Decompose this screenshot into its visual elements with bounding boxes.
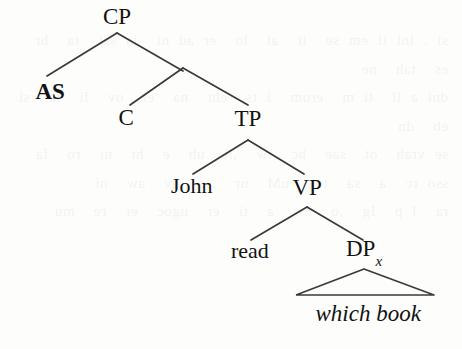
node-dp-subscript: x (375, 253, 382, 269)
node-cp-text: CP (103, 4, 131, 29)
node-vp-text: VP (293, 175, 322, 200)
node-dp: DPx (346, 237, 382, 265)
branch-cbar-tp (183, 68, 248, 105)
triangle-dp-which-book (296, 269, 434, 295)
branch-cp-cbar (117, 33, 183, 71)
node-dp-text: DP (346, 236, 375, 261)
node-tp: TP (235, 107, 262, 130)
syntax-tree-figure: si . inl ti em se it al lo er ad ni ia s… (0, 0, 462, 349)
node-as-text: AS (36, 79, 65, 104)
branch-cp-as (47, 33, 117, 76)
node-john-text: John (171, 173, 213, 198)
tree-branches (0, 0, 462, 349)
node-vp: VP (293, 176, 322, 199)
node-read: read (231, 240, 269, 262)
node-tp-text: TP (235, 106, 262, 131)
node-c: C (119, 106, 134, 129)
node-as: AS (36, 80, 65, 103)
node-which-book: which book (316, 302, 421, 325)
branch-cbar-c (130, 68, 183, 105)
branch-tp-vp (248, 140, 304, 174)
node-john: John (171, 175, 213, 197)
node-cp: CP (103, 5, 131, 28)
node-c-text: C (119, 105, 134, 130)
branch-tp-john (193, 140, 248, 174)
branch-vp-read (251, 207, 307, 240)
node-read-text: read (231, 238, 269, 263)
node-which-book-text: which book (316, 301, 421, 326)
